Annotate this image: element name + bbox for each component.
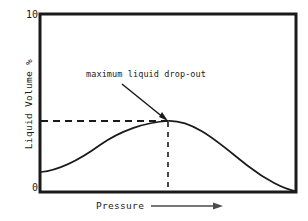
annotation-label-maximum-liquid-drop-out: maximum liquid drop-out [86, 69, 206, 80]
y-axis-tick-top: 10 [22, 10, 38, 20]
x-axis-title: Pressure [96, 199, 144, 213]
y-axis-title-wrapper: Liquid Volume % [17, 44, 31, 164]
x-axis-title-row: Pressure [96, 199, 223, 213]
y-axis-title: Liquid Volume % [23, 59, 34, 149]
right-arrow-icon [151, 201, 223, 211]
chart-figure: 10 0 Liquid Volume % Pressure maximum li… [0, 0, 308, 221]
plot-canvas [0, 0, 308, 221]
annotation-arrow [122, 84, 168, 121]
y-axis-tick-bottom: 0 [22, 183, 38, 193]
